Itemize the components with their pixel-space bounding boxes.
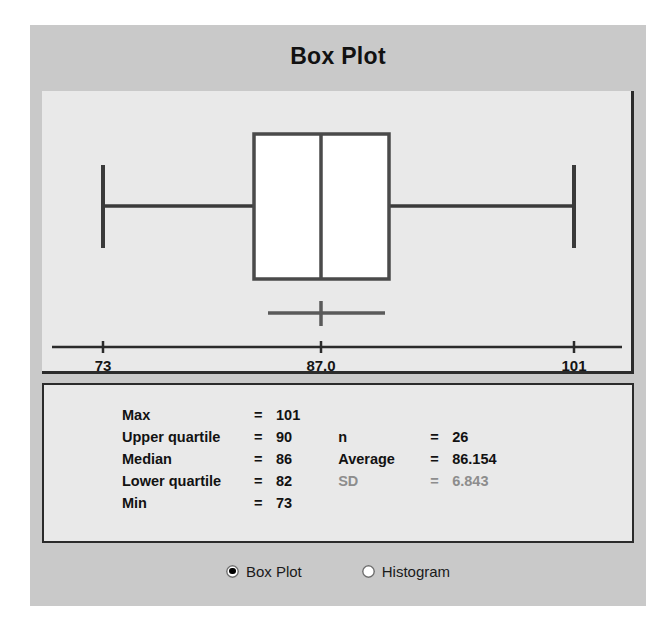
x-axis-label-max: 101: [561, 357, 586, 374]
stat-label: Average: [338, 451, 430, 467]
stat-label: Max: [122, 407, 254, 423]
stat-value: 90: [276, 429, 292, 445]
stat-row: SD=6.843: [338, 473, 496, 495]
stat-label: Upper quartile: [122, 429, 254, 445]
stat-value: 82: [276, 473, 292, 489]
statistics-column-right: n=26Average=86.154SD=6.843: [338, 407, 496, 517]
page-title: Box Plot: [290, 43, 386, 70]
box-plot-chart: 73 87.0 101: [42, 91, 634, 374]
radio-unselected-icon[interactable]: [362, 565, 375, 578]
stat-value: 26: [452, 429, 468, 445]
stat-row: Min=73: [122, 495, 300, 517]
stat-equals-sign: =: [254, 451, 276, 467]
stat-row: Upper quartile=90: [122, 429, 300, 451]
title-bar: Box Plot: [30, 25, 646, 88]
stat-row: Median=86: [122, 451, 300, 473]
radio-option-label: Histogram: [382, 563, 450, 580]
radio-option-histogram[interactable]: Histogram: [362, 563, 450, 580]
radio-option-label: Box Plot: [246, 563, 302, 580]
x-axis-label-min: 73: [95, 357, 112, 374]
stat-equals-sign: =: [430, 473, 452, 489]
stat-equals-sign: =: [254, 495, 276, 511]
stat-label: n: [338, 429, 430, 445]
stat-row: Lower quartile=82: [122, 473, 300, 495]
stat-equals-sign: =: [254, 473, 276, 489]
stat-equals-sign: =: [430, 451, 452, 467]
stat-value: 86.154: [452, 451, 496, 467]
radio-option-box-plot[interactable]: Box Plot: [226, 563, 302, 580]
stat-equals-sign: =: [430, 429, 452, 445]
stat-label: Lower quartile: [122, 473, 254, 489]
stat-value: 73: [276, 495, 292, 511]
stat-label: Min: [122, 495, 254, 511]
stat-value: 101: [276, 407, 300, 423]
statistics-grid: Max=101Upper quartile=90Median=86Lower q…: [122, 407, 497, 517]
stat-label: Median: [122, 451, 254, 467]
x-axis-label-mid: 87.0: [306, 357, 335, 374]
stat-row: Average=86.154: [338, 451, 496, 473]
stat-equals-sign: =: [254, 429, 276, 445]
stat-value: 86: [276, 451, 292, 467]
stat-row: n=26: [338, 429, 496, 451]
radio-selected-icon[interactable]: [226, 565, 239, 578]
statistics-panel: Max=101Upper quartile=90Median=86Lower q…: [42, 383, 634, 543]
stat-value: 6.843: [452, 473, 488, 489]
statistics-column-left: Max=101Upper quartile=90Median=86Lower q…: [122, 407, 300, 517]
stat-label: SD: [338, 473, 430, 489]
stat-row: Max=101: [122, 407, 300, 429]
box-plot-window: Box Plot 73 87.0 101: [30, 25, 646, 606]
chart-panel: 73 87.0 101: [42, 91, 634, 374]
stat-equals-sign: =: [254, 407, 276, 423]
mode-selector: Box PlotHistogram: [30, 553, 646, 589]
